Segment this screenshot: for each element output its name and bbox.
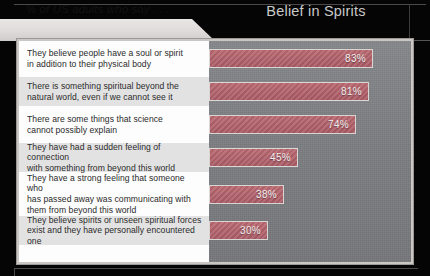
statement-text: They believe people have a soul or spiri… (27, 48, 183, 69)
statement-label: There are some things that sciencecannot… (19, 110, 209, 139)
statement-line: in addition to their physical body (27, 59, 183, 70)
chart-panel: They believe people have a soul or spiri… (17, 39, 413, 264)
statement-line: with something from beyond this world (27, 163, 203, 174)
data-bar: 81% (209, 82, 369, 101)
statement-label: They have a strong feeling that someone … (19, 176, 209, 212)
statement-line: cannot possibly explain (27, 125, 163, 136)
bar-value-label: 83% (345, 53, 366, 64)
bar-value-label: 45% (270, 152, 291, 163)
statement-label: They believe people have a soul or spiri… (19, 44, 209, 73)
statement-line: They have a strong feeling that someone … (27, 173, 203, 194)
statement-line: There are some things that science (27, 114, 163, 125)
statement-text: They have a strong feeling that someone … (27, 173, 203, 215)
statement-text: They have had a sudden feeling of connec… (27, 142, 203, 174)
statement-label: There is something spiritual beyond then… (19, 77, 209, 106)
statement-line: them from beyond this world (27, 205, 203, 216)
bar-value-label: 74% (328, 119, 349, 130)
subtitle-text: % of US adults who say . . . (26, 3, 169, 15)
data-bar: 45% (209, 148, 298, 167)
statement-text: They believe spirits or unseen spiritual… (27, 215, 203, 247)
statement-line: They believe spirits or unseen spiritual… (27, 215, 203, 226)
plot-area: They believe people have a soul or spiri… (19, 41, 411, 262)
statement-label: They believe spirits or unseen spiritual… (19, 216, 209, 245)
subtitle-banner (0, 19, 215, 41)
statement-line: They believe people have a soul or spiri… (27, 48, 183, 59)
statement-line: has passed away was communicating with (27, 194, 203, 205)
frame-bottom-line (14, 268, 418, 269)
statement-line: There is something spiritual beyond the (27, 81, 179, 92)
statement-text: There is something spiritual beyond then… (27, 81, 179, 102)
label-column: They believe people have a soul or spiri… (19, 41, 209, 262)
statement-label: They have had a sudden feeling of connec… (19, 143, 209, 172)
data-bar: 83% (209, 49, 373, 68)
chart-title: Belief in Spirits (218, 3, 414, 19)
statement-text: There are some things that sciencecannot… (27, 114, 163, 135)
frame-bottom-corner (14, 268, 15, 276)
statement-line: They have had a sudden feeling of connec… (27, 142, 203, 163)
statement-line: exist and they have personally encounter… (27, 225, 203, 246)
data-bar: 74% (209, 115, 356, 134)
data-bar: 30% (209, 221, 268, 240)
data-bar: 38% (209, 185, 284, 204)
bar-value-label: 81% (341, 86, 362, 97)
bar-value-label: 38% (256, 189, 277, 200)
statement-line: natural world, even if we cannot see it (27, 92, 179, 103)
chart-screen: Belief in Spirits % of US adults who say… (0, 0, 430, 276)
bar-value-label: 30% (240, 225, 261, 236)
